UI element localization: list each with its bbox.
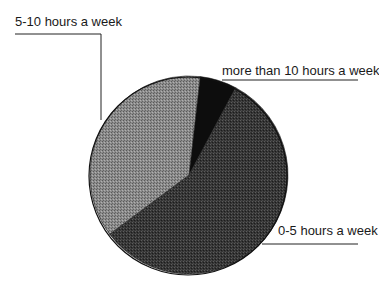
label-5-10-hours: 5-10 hours a week [15, 14, 122, 120]
label-0-5-text: 0-5 hours a week [278, 223, 378, 238]
label-more-than-10-text: more than 10 hours a week [222, 63, 379, 78]
label-more-than-10-hours: more than 10 hours a week [222, 63, 379, 80]
label-5-10-text: 5-10 hours a week [15, 14, 122, 29]
label-0-5-hours: 0-5 hours a week [262, 223, 378, 244]
pie-chart-svg: 5-10 hours a week more than 10 hours a w… [0, 0, 379, 281]
leader-line-5-10 [15, 34, 101, 120]
pie-chart: 5-10 hours a week more than 10 hours a w… [0, 0, 379, 281]
